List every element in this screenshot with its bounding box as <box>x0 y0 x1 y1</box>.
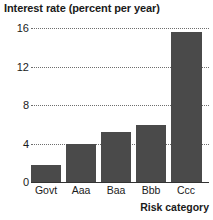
chart-screenshot: Interest rate (percent per year) 16 12 8… <box>0 0 213 220</box>
y-tick-label: 12 <box>3 61 29 72</box>
y-tick-label: 0 <box>3 177 29 188</box>
y-tick-label: 16 <box>3 23 29 34</box>
bar-bbb <box>136 125 166 183</box>
x-tick-label-govt: Govt <box>28 185 64 197</box>
x-tick-label-baa: Baa <box>98 185 134 197</box>
x-tick-label-ccc: Ccc <box>168 185 204 197</box>
y-axis-tick-labels: 16 12 8 4 0 <box>0 0 29 220</box>
x-axis-line <box>31 182 209 183</box>
y-tick-label: 4 <box>3 138 29 149</box>
x-tick-label-aaa: Aaa <box>63 185 99 197</box>
bar-ccc <box>171 32 202 183</box>
bar-aaa <box>66 144 96 183</box>
gridline-16 <box>31 28 209 29</box>
bar-baa <box>101 132 131 183</box>
x-tick-label-bbb: Bbb <box>133 185 169 197</box>
x-axis-title: Risk category <box>140 201 209 213</box>
y-tick-label: 8 <box>3 100 29 111</box>
bar-govt <box>31 165 61 183</box>
plot-area <box>31 26 209 183</box>
